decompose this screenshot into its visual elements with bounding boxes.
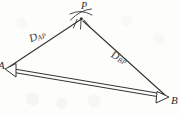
diagram-canvas bbox=[0, 0, 181, 115]
vertex-label-a: A bbox=[0, 60, 5, 71]
arc-tick-mid bbox=[81, 20, 82, 29]
vertex-dot-p bbox=[80, 17, 83, 20]
arc-tick-right bbox=[84, 20, 90, 27]
geometry-figure: A B P DAP DBP bbox=[0, 0, 181, 115]
baseline-lower-rule bbox=[14, 73, 163, 98]
vertex-label-b: B bbox=[171, 95, 178, 106]
vertex-label-p: P bbox=[81, 1, 87, 11]
segment-ap-line bbox=[9, 20, 80, 67]
